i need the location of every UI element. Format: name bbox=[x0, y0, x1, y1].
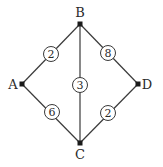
weight-value: 3 bbox=[77, 79, 84, 92]
node-A-label: A bbox=[7, 77, 18, 92]
weight-value: 2 bbox=[105, 107, 112, 120]
node-C-label: C bbox=[75, 147, 85, 162]
edge-weight-BC: 3 bbox=[73, 78, 88, 93]
node-C-dot bbox=[78, 141, 83, 146]
edge-weight-AC: 6 bbox=[45, 105, 60, 120]
edge-weight-BD: 8 bbox=[101, 46, 116, 61]
edge-weight-CD: 2 bbox=[101, 106, 116, 121]
weight-value: 8 bbox=[105, 47, 112, 60]
node-B-dot bbox=[78, 22, 83, 27]
node-D-dot bbox=[136, 82, 141, 87]
weighted-graph-diagram: 28362 ABCD bbox=[0, 0, 163, 167]
node-D-label: D bbox=[142, 77, 152, 92]
weight-value: 6 bbox=[49, 106, 56, 119]
node-A-dot bbox=[20, 82, 25, 87]
edge-weight-AB: 2 bbox=[44, 47, 59, 62]
weight-value: 2 bbox=[48, 48, 55, 61]
node-B-label: B bbox=[75, 5, 85, 20]
